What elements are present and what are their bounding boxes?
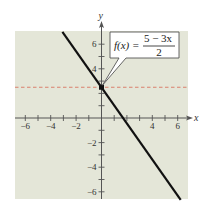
y-tick-label: −4 <box>87 162 97 172</box>
chart-figure: −6−4−24664−2−4−6 f(x) = 5 − 3x 2 x y <box>0 0 211 209</box>
x-tick-label: 4 <box>150 121 155 131</box>
callout-lhs: f(x) = <box>114 39 139 52</box>
y-tick-label: −2 <box>87 138 97 148</box>
y-tick-label: 6 <box>92 39 97 49</box>
y-tick-label: −6 <box>87 187 97 197</box>
x-axis-label: x <box>193 112 199 123</box>
y-tick-label: 4 <box>92 64 97 74</box>
x-tick-label: 6 <box>175 121 180 131</box>
intercept-marker <box>99 85 104 90</box>
callout-numerator: 5 − 3x <box>144 32 173 44</box>
x-tick-label: −6 <box>21 121 31 131</box>
x-tick-label: −4 <box>46 121 56 131</box>
chart-svg: −6−4−24664−2−4−6 f(x) = 5 − 3x 2 x y <box>0 0 211 209</box>
callout-denominator: 2 <box>156 46 162 58</box>
intercept-point <box>99 85 104 90</box>
y-axis-label: y <box>98 10 104 21</box>
x-tick-label: −2 <box>71 121 81 131</box>
